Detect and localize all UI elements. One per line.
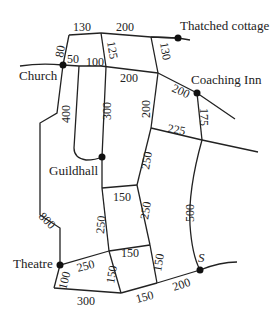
road-s-east xyxy=(200,262,237,270)
label-church: Church xyxy=(19,68,58,83)
dist-vert-200: 200 xyxy=(139,100,153,118)
road-network-map: Church Thatched cottage Coaching Inn Gui… xyxy=(0,0,280,326)
dist-church-50: 50 xyxy=(67,52,79,66)
coaching-inn-node[interactable] xyxy=(194,90,201,97)
dist-bottom-150: 150 xyxy=(134,288,155,306)
label-coaching-inn: Coaching Inn xyxy=(191,72,262,87)
dist-vert-130: 130 xyxy=(157,41,174,61)
dist-vert-125: 125 xyxy=(104,40,121,60)
dist-bottom-300: 300 xyxy=(77,294,95,308)
dist-church-100: 100 xyxy=(86,55,104,69)
dist-left-80: 80 xyxy=(52,44,68,58)
label-theatre: Theatre xyxy=(13,256,53,271)
road-150-upper xyxy=(102,185,137,188)
dist-inn-200: 200 xyxy=(170,81,192,101)
dist-vert-300: 300 xyxy=(100,102,114,120)
dist-vr-150: 150 xyxy=(150,252,167,272)
thatched-cottage-node[interactable] xyxy=(175,35,182,42)
dist-curve-500: 500 xyxy=(183,204,197,222)
label-guildhall: Guildhall xyxy=(49,163,98,178)
dist-upper-150: 150 xyxy=(113,190,131,204)
road-300 xyxy=(102,67,106,188)
guildhall-node[interactable] xyxy=(99,154,106,161)
dist-top-200: 200 xyxy=(116,20,134,34)
dist-cross-225: 225 xyxy=(166,121,186,138)
road-loop-400 xyxy=(74,66,102,160)
label-s: S xyxy=(198,250,205,265)
dist-loop-400: 400 xyxy=(59,105,73,123)
dist-left-250: 250 xyxy=(93,215,109,234)
s-node[interactable] xyxy=(197,267,204,274)
dist-mid-150: 150 xyxy=(121,246,139,260)
road-network-svg: Church Thatched cottage Coaching Inn Gui… xyxy=(0,0,280,326)
dist-inn-175: 175 xyxy=(197,108,211,126)
dist-top-130: 130 xyxy=(73,20,91,34)
church-node[interactable] xyxy=(60,62,67,69)
dist-mid-200: 200 xyxy=(120,71,138,85)
dist-right-250: 250 xyxy=(137,200,154,220)
label-thatched-cottage: Thatched cottage xyxy=(180,18,269,33)
dist-diag-250: 250 xyxy=(138,150,155,170)
theatre-node[interactable] xyxy=(57,262,64,269)
dist-outer-800: 800 xyxy=(36,209,59,232)
